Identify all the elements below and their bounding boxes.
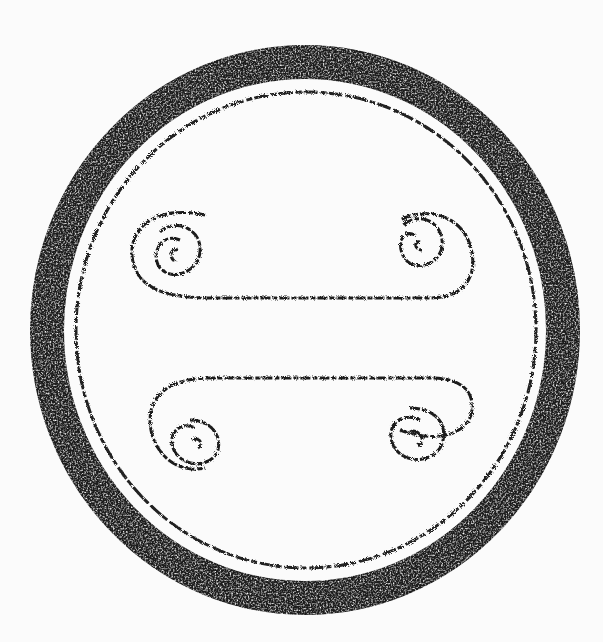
tile-rubbing (0, 0, 603, 642)
outer-rim (47, 62, 563, 598)
lower-scroll-band (150, 378, 472, 469)
upper-right-spiral (401, 219, 443, 266)
inner-rim-line (76, 92, 536, 568)
rubbing-image (0, 0, 603, 642)
lower-right-spiral (391, 408, 444, 459)
upper-left-spiral (156, 226, 200, 275)
lower-left-spiral (172, 420, 219, 464)
